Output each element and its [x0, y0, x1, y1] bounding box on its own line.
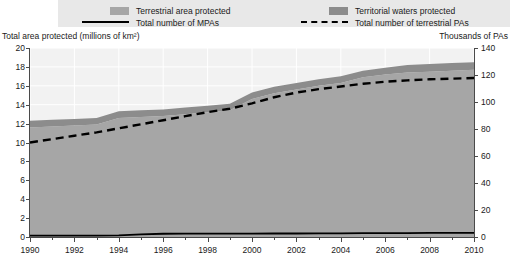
y-tick-label-left: 20: [3, 44, 25, 53]
x-tick-mark-major: [430, 238, 431, 242]
legend-label: Terrestrial area protected: [136, 6, 231, 16]
x-tick-mark-minor: [97, 238, 98, 240]
x-tick-mark-major: [252, 238, 253, 242]
x-tick-label: 1996: [146, 246, 180, 255]
y-tick-label-left: 6: [3, 176, 25, 185]
y-tick-label-right: 20: [481, 206, 507, 215]
y-tick-label-left: 0: [3, 233, 25, 242]
x-tick-mark-minor: [452, 238, 453, 240]
y-tick-label-left: 8: [3, 157, 25, 166]
chart-legend: Terrestrial area protected Territorial w…: [58, 0, 510, 27]
y-tick-label-left: 16: [3, 82, 25, 91]
x-tick-mark-major: [341, 238, 342, 242]
x-tick-mark-minor: [230, 238, 231, 240]
y-tick-label-left: 14: [3, 101, 25, 110]
x-tick-mark-major: [163, 238, 164, 242]
x-tick-mark-major: [119, 238, 120, 242]
y-tick-label-right: 40: [481, 179, 507, 188]
y-tick-mark-right: [474, 48, 478, 49]
x-tick-label: 2004: [324, 246, 358, 255]
x-tick-mark-minor: [185, 238, 186, 240]
x-tick-mark-minor: [407, 238, 408, 240]
y-tick-label-left: 12: [3, 120, 25, 129]
x-tick-mark-major: [208, 238, 209, 242]
plot-area: [30, 48, 474, 237]
y-tick-mark-right: [474, 75, 478, 76]
plot-svg: [30, 48, 474, 237]
y-tick-mark-left: [26, 124, 30, 125]
legend-item-territorial-waters: Territorial waters protected: [329, 5, 455, 16]
x-tick-label: 2000: [235, 246, 269, 255]
y-tick-mark-left: [26, 48, 30, 49]
y-tick-label-left: 18: [3, 63, 25, 72]
x-tick-mark-minor: [274, 238, 275, 240]
legend-label: Total number of MPAs: [136, 18, 219, 28]
y-tick-label-right: 60: [481, 152, 507, 161]
x-tick-label: 1994: [102, 246, 136, 255]
y-tick-label-right: 80: [481, 125, 507, 134]
x-tick-mark-major: [74, 238, 75, 242]
y-tick-label-right: 100: [481, 98, 507, 107]
y-tick-mark-left: [26, 218, 30, 219]
y-tick-mark-left: [26, 105, 30, 106]
y-tick-mark-left: [26, 199, 30, 200]
y-tick-mark-left: [26, 67, 30, 68]
x-tick-mark-major: [474, 238, 475, 242]
legend-item-total-terrestrial-pas: Total number of terrestrial PAs: [301, 17, 469, 28]
x-tick-label: 1990: [13, 246, 47, 255]
x-tick-label: 2008: [413, 246, 447, 255]
x-tick-label: 2010: [457, 246, 491, 255]
y-tick-mark-right: [474, 129, 478, 130]
y-tick-label-right: 120: [481, 71, 507, 80]
chart-figure: Terrestrial area protected Territorial w…: [0, 0, 510, 265]
y-tick-label-right: 140: [481, 44, 507, 53]
legend-label: Territorial waters protected: [355, 6, 455, 16]
x-tick-label: 2006: [368, 246, 402, 255]
x-tick-label: 1998: [191, 246, 225, 255]
y-tick-mark-right: [474, 183, 478, 184]
y-tick-mark-right: [474, 156, 478, 157]
y-tick-mark-left: [26, 161, 30, 162]
x-tick-mark-minor: [363, 238, 364, 240]
y-tick-label-right: 0: [481, 233, 507, 242]
x-tick-mark-minor: [141, 238, 142, 240]
right-axis-title: Thousands of PAs: [439, 31, 508, 41]
y-tick-mark-left: [26, 180, 30, 181]
y-tick-label-left: 2: [3, 214, 25, 223]
legend-item-terrestrial-area: Terrestrial area protected: [110, 5, 231, 16]
y-tick-mark-left: [26, 143, 30, 144]
x-tick-mark-major: [296, 238, 297, 242]
legend-swatch-icon: [110, 7, 129, 15]
left-axis-title: Total area protected (millions of km²): [2, 31, 139, 41]
x-tick-label: 1992: [57, 246, 91, 255]
x-tick-label: 2002: [279, 246, 313, 255]
y-tick-label-left: 10: [3, 139, 25, 148]
legend-solid-line-icon: [82, 21, 129, 23]
y-tick-label-left: 4: [3, 195, 25, 204]
legend-swatch-icon: [329, 7, 348, 15]
legend-dashed-line-icon: [301, 21, 348, 23]
y-tick-mark-right: [474, 210, 478, 211]
x-tick-mark-minor: [319, 238, 320, 240]
legend-item-total-mpas: Total number of MPAs: [82, 17, 219, 28]
y-tick-mark-right: [474, 102, 478, 103]
y-tick-mark-left: [26, 86, 30, 87]
x-tick-mark-major: [30, 238, 31, 242]
x-tick-mark-minor: [52, 238, 53, 240]
legend-label: Total number of terrestrial PAs: [355, 18, 469, 28]
x-tick-mark-major: [385, 238, 386, 242]
